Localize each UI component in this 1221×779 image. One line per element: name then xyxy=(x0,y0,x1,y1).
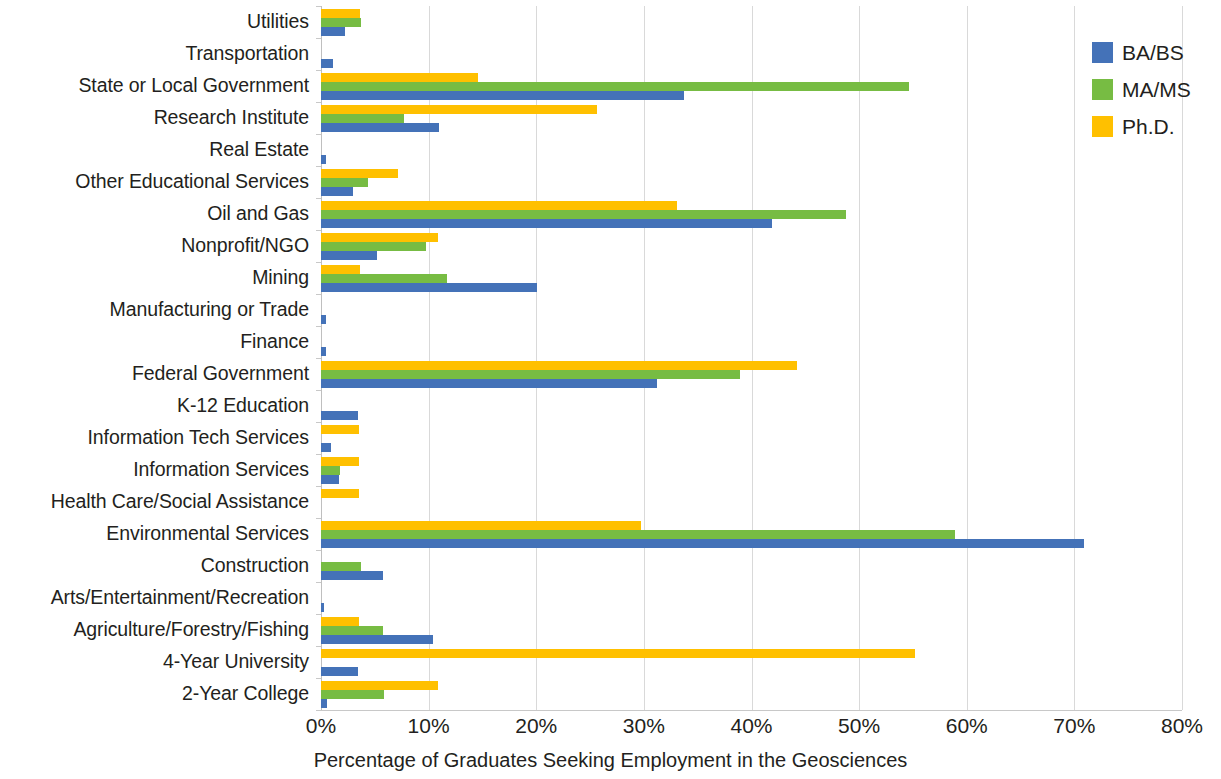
x-axis-title: Percentage of Graduates Seeking Employme… xyxy=(0,750,1221,770)
category-label: Federal Government xyxy=(132,364,309,384)
bar-group xyxy=(321,486,1182,518)
bar-phd xyxy=(321,265,360,274)
legend-label: MA/MS xyxy=(1122,79,1191,100)
x-tick-label-0: 0% xyxy=(306,715,336,736)
bar-rows xyxy=(321,6,1182,710)
bar-group xyxy=(321,550,1182,582)
category-tick xyxy=(316,326,321,327)
bar-babs xyxy=(321,379,657,388)
bar-group xyxy=(321,582,1182,614)
category-tick xyxy=(316,390,321,391)
bar-babs xyxy=(321,315,326,324)
category-label: Health Care/Social Assistance xyxy=(51,492,309,512)
category-tick xyxy=(316,710,321,711)
bar-group xyxy=(321,134,1182,166)
legend-item-mams[interactable]: MA/MS xyxy=(1092,71,1212,108)
x-tick-label-20: 20% xyxy=(515,715,557,736)
category-tick xyxy=(316,454,321,455)
bar-babs xyxy=(321,411,358,420)
category-label: Manufacturing or Trade xyxy=(110,300,309,320)
category-tick xyxy=(316,6,321,7)
category-tick xyxy=(316,678,321,679)
category-label: Mining xyxy=(252,268,309,288)
bar-babs xyxy=(321,475,339,484)
bar-group xyxy=(321,198,1182,230)
category-tick xyxy=(316,294,321,295)
category-label: State or Local Government xyxy=(78,76,309,96)
bar-phd xyxy=(321,361,797,370)
bar-mams xyxy=(321,370,740,379)
bar-phd xyxy=(321,169,398,178)
category-tick xyxy=(316,518,321,519)
category-tick xyxy=(316,70,321,71)
category-tick xyxy=(316,646,321,647)
category-label: Information Services xyxy=(133,460,309,480)
bar-babs xyxy=(321,539,1084,548)
bar-mams xyxy=(321,562,361,571)
bar-phd xyxy=(321,233,438,242)
bar-group xyxy=(321,230,1182,262)
category-label: Nonprofit/NGO xyxy=(181,236,309,256)
bar-mams xyxy=(321,114,404,123)
bar-mams xyxy=(321,210,846,219)
bar-group xyxy=(321,454,1182,486)
plot-area xyxy=(321,6,1182,710)
bar-group xyxy=(321,646,1182,678)
category-label: Arts/Entertainment/Recreation xyxy=(51,588,309,608)
category-tick xyxy=(316,102,321,103)
category-label: 4-Year University xyxy=(163,652,309,672)
bar-group xyxy=(321,70,1182,102)
bar-group xyxy=(321,358,1182,390)
category-tick xyxy=(316,230,321,231)
legend: BA/BSMA/MSPh.D. xyxy=(1092,34,1212,145)
x-tick-label-50: 50% xyxy=(838,715,880,736)
bar-phd xyxy=(321,649,915,658)
bar-group xyxy=(321,38,1182,70)
x-tick-label-10: 10% xyxy=(408,715,450,736)
bar-group xyxy=(321,102,1182,134)
category-label: Oil and Gas xyxy=(207,204,309,224)
bar-mams xyxy=(321,274,447,283)
legend-label: BA/BS xyxy=(1122,42,1184,63)
x-tick-label-70: 70% xyxy=(1053,715,1095,736)
bar-babs xyxy=(321,123,439,132)
bar-phd xyxy=(321,73,478,82)
category-label: Research Institute xyxy=(154,108,309,128)
legend-swatch-icon xyxy=(1092,116,1113,137)
category-label: Information Tech Services xyxy=(88,428,310,448)
bar-babs xyxy=(321,443,331,452)
category-tick xyxy=(316,486,321,487)
bar-babs xyxy=(321,187,353,196)
category-label: Construction xyxy=(201,556,309,576)
category-label: Other Educational Services xyxy=(75,172,309,192)
category-tick xyxy=(316,358,321,359)
bar-babs xyxy=(321,27,345,36)
category-tick xyxy=(316,550,321,551)
category-label: K-12 Education xyxy=(177,396,309,416)
bar-phd xyxy=(321,521,641,530)
legend-swatch-icon xyxy=(1092,79,1113,100)
bar-phd xyxy=(321,201,677,210)
bar-mams xyxy=(321,242,426,251)
category-label: Agriculture/Forestry/Fishing xyxy=(73,620,309,640)
bar-mams xyxy=(321,626,383,635)
bar-phd xyxy=(321,489,359,498)
legend-item-phd[interactable]: Ph.D. xyxy=(1092,108,1212,145)
bar-babs xyxy=(321,91,684,100)
category-tick xyxy=(316,614,321,615)
category-tick xyxy=(316,422,321,423)
category-tick xyxy=(316,38,321,39)
bar-babs xyxy=(321,59,333,68)
bar-babs xyxy=(321,219,772,228)
bar-mams xyxy=(321,690,384,699)
category-axis: UtilitiesTransportationState or Local Go… xyxy=(0,6,315,710)
legend-item-babs[interactable]: BA/BS xyxy=(1092,34,1212,71)
bar-babs xyxy=(321,667,358,676)
bar-babs xyxy=(321,571,383,580)
category-label: Real Estate xyxy=(209,140,309,160)
category-tick xyxy=(316,262,321,263)
x-tick-label-30: 30% xyxy=(623,715,665,736)
category-label: 2-Year College xyxy=(182,684,309,704)
legend-swatch-icon xyxy=(1092,42,1113,63)
bar-phd xyxy=(321,681,438,690)
